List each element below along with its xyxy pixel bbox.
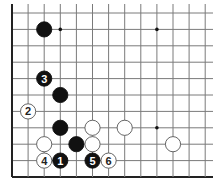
move-number: 2 bbox=[25, 105, 31, 117]
white-stone-2: 2 bbox=[21, 104, 36, 119]
move-number: 6 bbox=[106, 155, 112, 167]
star-point bbox=[155, 126, 159, 130]
go-board: 324156 bbox=[0, 0, 224, 190]
star-point bbox=[59, 28, 63, 32]
black-stone-5: 5 bbox=[85, 153, 100, 168]
white-stone-4: 4 bbox=[37, 153, 52, 168]
star-point bbox=[155, 28, 159, 32]
white-stone bbox=[117, 120, 132, 135]
black-stone-1: 1 bbox=[53, 153, 68, 168]
black-stone-3: 3 bbox=[37, 71, 52, 86]
white-stone-6: 6 bbox=[101, 153, 116, 168]
move-number: 5 bbox=[89, 155, 95, 167]
black-stone bbox=[37, 22, 52, 37]
move-number: 1 bbox=[57, 155, 63, 167]
white-stone bbox=[85, 137, 100, 152]
white-stone bbox=[85, 120, 100, 135]
move-number: 3 bbox=[41, 73, 47, 85]
white-stone bbox=[165, 137, 180, 152]
white-stone bbox=[37, 137, 52, 152]
black-stone bbox=[53, 120, 68, 135]
black-stone bbox=[53, 87, 68, 102]
move-number: 4 bbox=[41, 155, 48, 167]
black-stone bbox=[69, 137, 84, 152]
